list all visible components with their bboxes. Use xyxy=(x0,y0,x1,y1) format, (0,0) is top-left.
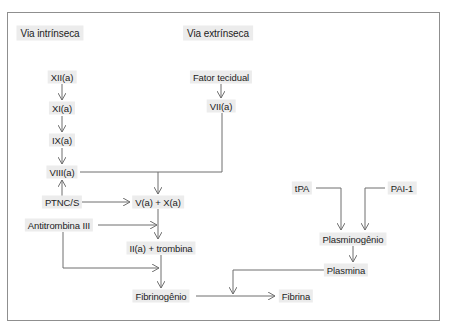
node-tissue-factor: Fator tecidual xyxy=(190,71,252,84)
node-plasminogen: Plasminogênio xyxy=(319,233,386,246)
node-factor-xi: XI(a) xyxy=(49,102,75,115)
node-fibrin: Fibrina xyxy=(279,290,313,303)
header-intrinsic-pathway: Via intrínseca xyxy=(16,26,83,41)
arrow-pai-plg xyxy=(365,188,385,230)
node-factor-xii: XII(a) xyxy=(48,71,77,84)
node-factor-ix: IX(a) xyxy=(49,134,75,147)
node-thrombin: II(a) + trombina xyxy=(126,242,195,255)
node-antithrombin-iii: Antitrombina III xyxy=(25,219,93,232)
node-factor-vii: VII(a) xyxy=(207,100,236,113)
node-fibrinogen: Fibrinogênio xyxy=(132,290,189,303)
node-ptnc-s: PTNC/S xyxy=(42,196,82,209)
header-extrinsic-pathway: Via extrínseca xyxy=(183,26,253,41)
line-viii-vii-join xyxy=(80,113,222,172)
node-plasmin: Plasmina xyxy=(324,264,368,277)
node-pai-1: PAI-1 xyxy=(388,182,417,195)
node-factor-v-x: V(a) + X(a) xyxy=(132,196,184,209)
arrow-tpa-plg xyxy=(316,188,341,230)
node-factor-viii: VIII(a) xyxy=(46,166,77,179)
node-tpa: tPA xyxy=(292,182,312,195)
